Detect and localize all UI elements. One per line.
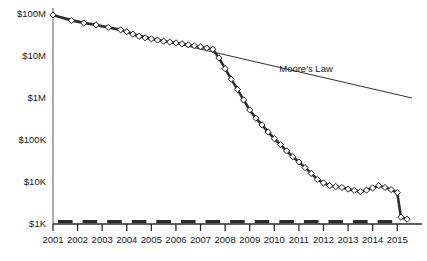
data-point-marker [339,184,345,190]
x-tick-label: 2008 [215,234,236,245]
x-tick-label: 2015 [387,234,408,245]
y-tick-label: $10M [22,50,46,61]
y-tick-label: $1M [28,92,47,103]
data-point-marker [154,37,160,43]
data-point-marker [93,22,99,28]
x-tick-label: 2011 [289,234,309,245]
data-point-marker [333,183,339,189]
chart-container: $100M$10M$1M$100K$10K$1K 200120022003200… [0,0,427,261]
x-tick-label: 2001 [42,234,63,245]
y-tick-label: $100M [17,8,46,19]
y-tick-label: $1K [29,218,47,229]
x-tick-label: 2003 [92,234,113,245]
y-tick-label: $10K [24,176,47,187]
data-point-marker [179,41,185,47]
x-axis-tick-labels: 2001200220032004200520062007200820092010… [42,234,407,245]
data-point-marker [357,189,363,195]
x-tick-label: 2014 [362,234,383,245]
data-point-marker [50,12,56,18]
data-point-markers [50,12,410,222]
data-point-marker [345,186,351,192]
data-point-marker [81,20,87,26]
data-point-marker [398,214,404,220]
data-point-marker [161,38,167,44]
x-tick-label: 2002 [67,234,88,245]
x-tick-label: 2012 [313,234,334,245]
x-tick-label: 2007 [190,234,211,245]
moores-law-annotation: Moore's Law [279,63,333,74]
x-tick-label: 2006 [165,234,186,245]
data-point-marker [118,27,124,33]
data-point-marker [173,40,179,46]
data-point-marker [404,216,410,222]
x-tick-label: 2009 [239,234,260,245]
x-tick-label: 2010 [264,234,285,245]
x-tick-label: 2013 [337,234,358,245]
y-axis-tick-labels: $100M$10M$1M$100K$10K$1K [17,8,47,229]
x-tick-label: 2005 [141,234,162,245]
data-point-marker [351,187,357,193]
data-point-marker [382,184,388,190]
data-point-marker [105,24,111,30]
data-point-marker [167,39,173,45]
cost-per-genome-chart: $100M$10M$1M$100K$10K$1K 200120022003200… [0,0,427,261]
x-axis-ticks [53,224,397,231]
data-point-marker [363,187,369,193]
x-tick-label: 2004 [116,234,137,245]
y-tick-label: $100K [19,134,47,145]
